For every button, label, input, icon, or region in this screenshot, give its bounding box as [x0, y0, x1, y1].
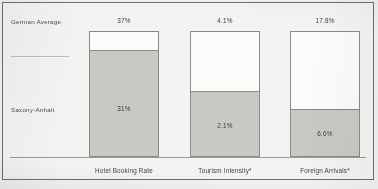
value-label-german-0: 37% [89, 17, 159, 24]
value-label-saxony-0: 31% [89, 105, 159, 112]
x-axis-line [10, 157, 366, 158]
bar-inner-hotel-booking-rate [90, 50, 158, 156]
series-label-german-average: German Average [11, 18, 61, 25]
category-label-1: Tourism Intensity* [170, 167, 280, 174]
chart-figure: German Average Saxony-Anhalt 37% 31% Hot… [0, 0, 378, 189]
plot-area: German Average Saxony-Anhalt 37% 31% Hot… [0, 0, 378, 189]
value-label-german-1: 4.1% [190, 17, 260, 24]
bar-tourism-intensity[interactable] [190, 31, 260, 157]
category-label-2: Foreign Arrivals* [270, 167, 378, 174]
value-label-saxony-1: 2.1% [190, 122, 260, 129]
value-label-saxony-2: 6.6% [290, 130, 360, 137]
label-divider-line [11, 56, 69, 57]
bar-foreign-arrivals[interactable] [290, 31, 360, 157]
category-label-0: Hotel Booking Rate [69, 167, 179, 174]
bar-hotel-booking-rate[interactable] [89, 31, 159, 157]
value-label-german-2: 17.8% [290, 17, 360, 24]
series-label-saxony-anhalt: Saxony-Anhalt [11, 106, 55, 113]
